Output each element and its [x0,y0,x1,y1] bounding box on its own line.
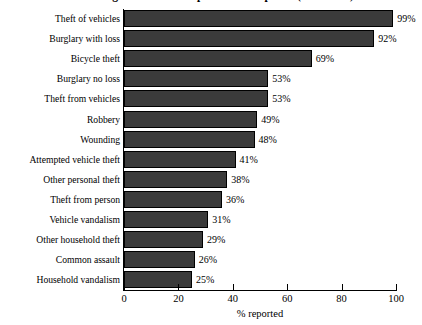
bar-value-label: 26% [199,252,217,267]
x-axis-tick [396,284,397,291]
bar [124,30,374,47]
x-axis-line [123,290,397,291]
x-axis-tick-label: 0 [121,293,126,304]
bar [124,131,255,148]
x-axis-tick [287,284,288,291]
bar [124,271,192,288]
bar [124,191,222,208]
bar-chart: Percentage of incidents reported to the … [0,0,422,325]
category-label: Other personal theft [4,171,124,188]
category-label: Vehicle vandalism [4,211,124,228]
bar-value-label: 48% [259,132,277,147]
category-label: Theft of vehicles [4,10,124,27]
bar-value-label: 29% [207,232,225,247]
category-label: Theft from person [4,191,124,208]
bar-value-label: 99% [397,11,415,26]
category-axis-labels: Theft of vehiclesBurglary with lossBicyc… [0,9,124,290]
bar [124,251,195,268]
bar-value-label: 41% [240,152,258,167]
x-axis-tick [178,284,179,291]
category-label: Attempted vehicle theft [4,151,124,168]
bar [124,171,227,188]
x-axis-tick-label: 20 [173,293,184,304]
bar [124,111,257,128]
bar-value-label: 69% [316,51,334,66]
x-axis-tick [342,284,343,291]
category-label: Other household theft [4,231,124,248]
bar [124,50,312,67]
category-label: Bicycle theft [4,50,124,67]
x-axis-tick-label: 40 [228,293,239,304]
x-axis-title: % reported [124,308,396,319]
category-label: Burglary with loss [4,30,124,47]
bar-value-label: 38% [231,172,249,187]
category-label: Robbery [4,111,124,128]
bar [124,151,236,168]
bar-value-label: 31% [212,212,230,227]
x-axis-tick-label: 100 [388,293,404,304]
bar [124,231,203,248]
category-label: Wounding [4,131,124,148]
x-axis-tick-label: 80 [336,293,347,304]
bar-value-label: 49% [261,112,279,127]
x-axis-tick [124,284,125,291]
plot-area: 99%92%69%53%53%49%48%41%38%36%31%29%26%2… [124,9,396,290]
x-axis-tick [233,284,234,291]
bar-value-label: 53% [272,71,290,86]
category-label: Household vandalism [4,271,124,288]
chart-title: Percentage of incidents reported to the … [0,0,422,1]
bar-value-label: 53% [272,91,290,106]
category-label: Theft from vehicles [4,90,124,107]
category-label: Burglary no loss [4,70,124,87]
bar [124,10,393,27]
bar [124,70,268,87]
bar-value-label: 36% [226,192,244,207]
x-axis-tick-label: 60 [282,293,293,304]
bar-value-label: 25% [196,272,214,287]
bar [124,90,268,107]
bar [124,211,208,228]
category-label: Common assault [4,251,124,268]
bar-value-label: 92% [378,31,396,46]
